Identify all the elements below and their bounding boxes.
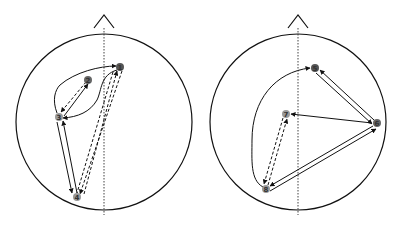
node-label: 4 <box>75 194 80 202</box>
edge-6-5 <box>320 70 374 120</box>
node-label: 1 <box>118 64 123 72</box>
edge-8-6 <box>270 129 376 191</box>
node-6: 6 <box>373 119 381 128</box>
node-8: 8 <box>262 185 270 194</box>
node-5: 5 <box>311 64 319 73</box>
edge-8-5 <box>252 68 310 187</box>
node-7: 7 <box>282 110 290 119</box>
node-2: 2 <box>84 76 92 85</box>
edge-6-8 <box>270 126 373 186</box>
head-right: 5 6 7 8 <box>210 15 386 215</box>
node-label: 8 <box>264 186 269 194</box>
node-3: 3 <box>55 113 63 122</box>
diagram-canvas: 1 2 3 4 5 <box>0 0 404 225</box>
edge-8-7 <box>268 119 287 185</box>
node-4: 4 <box>73 193 81 202</box>
node-label: 2 <box>86 77 91 85</box>
node-label: 6 <box>375 120 380 128</box>
node-1: 1 <box>116 63 124 72</box>
node-label: 5 <box>313 65 318 73</box>
nose-icon <box>288 15 308 28</box>
edge-1-4b <box>77 72 113 193</box>
edge-3-1 <box>54 66 116 113</box>
nose-icon <box>94 15 114 28</box>
edge-3-2 <box>64 84 88 116</box>
edge-2-3 <box>61 82 86 112</box>
edge-7-8 <box>264 118 283 184</box>
edge-6-7 <box>291 114 372 123</box>
head-left: 1 2 3 4 <box>16 15 192 215</box>
edge-5-6 <box>316 73 372 124</box>
node-label: 3 <box>57 114 62 122</box>
node-label: 7 <box>284 111 289 119</box>
